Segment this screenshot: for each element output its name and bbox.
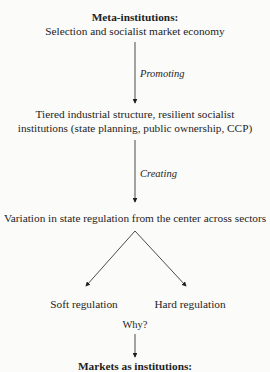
why-question: Why? <box>0 318 270 332</box>
industrial-structure-node: Tiered industrial structure, resilient s… <box>0 107 270 135</box>
meta-institutions-title: Meta-institutions: <box>0 10 270 24</box>
state-regulation-variation-node: Variation in state regulation from the c… <box>0 211 270 225</box>
edge-label-promoting: Promoting <box>140 68 185 79</box>
meta-institutions-subtitle: Selection and socialist market economy <box>0 24 270 38</box>
hard-regulation-node: Hard regulation <box>150 297 230 311</box>
industrial-structure-line1: Tiered industrial structure, resilient s… <box>0 107 270 121</box>
arrow-soft <box>86 231 135 286</box>
markets-as-institutions-node: Markets as institutions: <box>0 359 270 372</box>
soft-regulation-node: Soft regulation <box>44 297 124 311</box>
arrow-hard <box>135 231 186 286</box>
industrial-structure-line2: institutions (state planning, public own… <box>0 121 270 135</box>
meta-institutions-node: Meta-institutions: Selection and sociali… <box>0 10 270 38</box>
edge-label-creating: Creating <box>140 168 177 179</box>
diagram-arrows <box>0 0 270 372</box>
